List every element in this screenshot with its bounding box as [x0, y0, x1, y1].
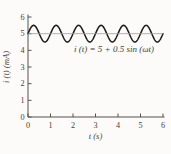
sine-current-chart: 01234560123456 i (t) = 5 + 0.5 sin (ωt) …	[0, 0, 171, 154]
y-tick-label: 1	[20, 96, 24, 105]
x-tick-label: 5	[138, 121, 142, 130]
equation-annotation: i (t) = 5 + 0.5 sin (ωt)	[74, 44, 154, 54]
y-tick-label: 4	[20, 46, 24, 55]
data-series	[28, 25, 163, 42]
x-tick-label: 6	[161, 121, 165, 130]
x-tick-label: 3	[93, 121, 97, 130]
x-tick-label: 0	[26, 121, 30, 130]
y-axis-label: i (t) (mA)	[1, 51, 11, 83]
x-tick-label: 2	[71, 121, 75, 130]
y-tick-label: 0	[20, 113, 24, 122]
axes	[28, 15, 165, 118]
axis-spines	[28, 15, 165, 118]
y-tick-label: 5	[20, 29, 24, 38]
y-tick-label: 2	[20, 79, 24, 88]
x-tick-label: 4	[116, 121, 120, 130]
chart-figure: 01234560123456 i (t) = 5 + 0.5 sin (ωt) …	[0, 0, 171, 154]
x-tick-label: 1	[48, 121, 52, 130]
tick-labels: 01234560123456	[20, 13, 165, 130]
y-tick-label: 6	[20, 13, 24, 22]
x-axis-label: t (s)	[89, 131, 103, 141]
y-tick-label: 3	[20, 63, 24, 72]
